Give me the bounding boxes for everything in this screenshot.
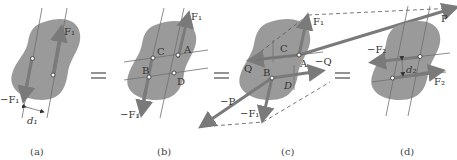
label-d2: d₂ <box>406 64 416 75</box>
label-P: P <box>441 13 448 24</box>
label-C: C <box>280 43 288 54</box>
label-D: D <box>177 76 185 87</box>
panel-a: F₁ −F₁ d₁ (a) <box>0 8 80 157</box>
label-F2: F₂ <box>434 76 445 87</box>
equals-sign <box>214 73 229 78</box>
point-C <box>151 56 155 60</box>
caption-c: (c) <box>281 146 295 157</box>
label-negF1: −F₁ <box>120 109 139 120</box>
caption-b: (b) <box>157 146 171 157</box>
label-F1: F₁ <box>191 11 202 22</box>
parallelogram-construction <box>200 122 263 127</box>
distance-arrow-d1 <box>26 107 44 112</box>
couple-equivalence-diagram: F₁ −F₁ d₁ (a) F₁ −F₁ C A B D (b) <box>0 0 457 160</box>
point-A <box>297 53 301 57</box>
label-B: B <box>142 65 149 76</box>
label-A: A <box>299 58 308 69</box>
caption-d: (d) <box>400 146 414 157</box>
label-B: B <box>263 67 270 78</box>
label-F1: F₁ <box>64 26 75 37</box>
label-d1: d₁ <box>27 115 37 126</box>
point-A <box>176 53 180 57</box>
label-D: D <box>283 80 292 91</box>
label-F1: F₁ <box>313 16 324 27</box>
point-of-application <box>31 57 35 61</box>
label-Q: Q <box>244 63 252 74</box>
label-negF2: −F₂ <box>367 44 386 55</box>
point-of-application <box>51 73 55 77</box>
equals-sign <box>335 73 350 78</box>
label-negF1: −F₁ <box>240 108 259 119</box>
equals-sign <box>91 73 106 78</box>
panel-d: d₂ −F₂ F₂ (d) <box>367 6 450 157</box>
point-of-application <box>391 76 395 80</box>
point-of-application <box>418 55 422 59</box>
point-B <box>270 76 274 80</box>
label-C: C <box>157 46 165 57</box>
point-D <box>172 71 176 75</box>
caption-a: (a) <box>30 146 44 157</box>
label-negF1: −F₁ <box>0 94 19 105</box>
label-negQ: −Q <box>315 56 332 67</box>
label-A: A <box>183 44 192 55</box>
label-negP: −P <box>220 96 235 107</box>
panel-b: F₁ −F₁ C A B D (b) <box>120 8 208 157</box>
force-negP-arrow <box>203 78 272 125</box>
